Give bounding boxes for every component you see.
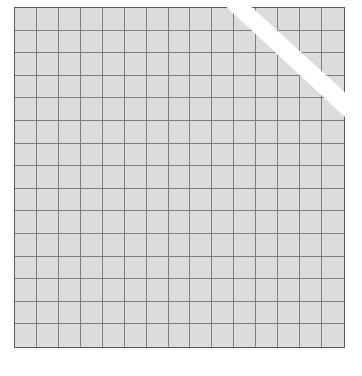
grid-cell [322,211,344,234]
grid-cell [125,166,147,189]
grid-cell [81,98,103,121]
grid-cell [322,76,344,99]
grid-cell [300,121,322,144]
grid-cell [147,189,169,212]
grid-cell [322,144,344,167]
grid-cell [125,144,147,167]
grid-cell [125,8,147,31]
grid-cell [147,324,169,347]
grid-cell [300,98,322,121]
grid-cell [169,76,191,99]
grid-cell [169,211,191,234]
grid-cell [147,8,169,31]
grid-cell [190,302,212,325]
grid-cell [81,302,103,325]
grid-cell [278,76,300,99]
grid-cell [15,189,37,212]
grid-cell [15,53,37,76]
grid-cell [300,257,322,280]
grid-cell [81,234,103,257]
grid-cell [322,302,344,325]
grid-cell [169,166,191,189]
grid-cell [37,144,59,167]
grid-cell [81,189,103,212]
grid-cell [212,98,234,121]
grid-cell [37,8,59,31]
grid-cell [300,53,322,76]
grid-cell [256,76,278,99]
grid-cell [103,302,125,325]
grid-cell [300,324,322,347]
grid-cell [190,166,212,189]
grid-cell [278,166,300,189]
grid-cell [59,324,81,347]
grid-cell [81,166,103,189]
grid-cell [169,324,191,347]
grid-cell [190,324,212,347]
grid-cell [147,31,169,54]
grid-cell [169,302,191,325]
grid-cell [59,257,81,280]
grid-cell [212,76,234,99]
grid-cell [300,166,322,189]
grid-cell [190,98,212,121]
grid-cell [59,76,81,99]
grid-cell [15,76,37,99]
grid-cell [169,31,191,54]
grid-cell [234,279,256,302]
grid-cell [234,257,256,280]
grid-cell [15,302,37,325]
grid-cell [59,53,81,76]
grid-cell [234,211,256,234]
grid-cell [59,166,81,189]
grid-cell [212,324,234,347]
grid-cell [15,279,37,302]
grid-cell [190,8,212,31]
grid-cell [147,279,169,302]
grid-cell [169,53,191,76]
grid-cell [300,31,322,54]
grid-cell [256,121,278,144]
grid-cell [212,257,234,280]
grid-cell [147,234,169,257]
grid-cell [322,257,344,280]
grid-cell [37,98,59,121]
grid-cell [190,279,212,302]
grid-cell [103,144,125,167]
grid-cell [278,257,300,280]
grid-cell [212,166,234,189]
grid-cell [125,302,147,325]
grid-cell [147,144,169,167]
grid-cell [37,53,59,76]
grid-cell [15,31,37,54]
grid-cell [81,53,103,76]
grid-cell [103,211,125,234]
grid-cell [59,144,81,167]
grid-cell [147,166,169,189]
grid-cell [15,144,37,167]
grid-cell [81,211,103,234]
grid-cell [103,324,125,347]
grid-cell [256,257,278,280]
grid-cell [322,8,344,31]
grid-cell [37,234,59,257]
grid-cell [15,211,37,234]
grid-cell [15,8,37,31]
grid-cell [103,53,125,76]
grid-cell [234,166,256,189]
grid-cell [169,121,191,144]
grid-cell [212,211,234,234]
grid-cell [234,302,256,325]
grid-cell [169,8,191,31]
grid-cell [37,257,59,280]
grid-cell [190,257,212,280]
grid-cell [37,211,59,234]
grid-cell [81,279,103,302]
grid-cell [81,257,103,280]
grid-cell [234,8,256,31]
grid-cell [103,189,125,212]
grid-cell [234,189,256,212]
grid-cell [212,234,234,257]
grid-cell [256,166,278,189]
grid-cell [59,302,81,325]
